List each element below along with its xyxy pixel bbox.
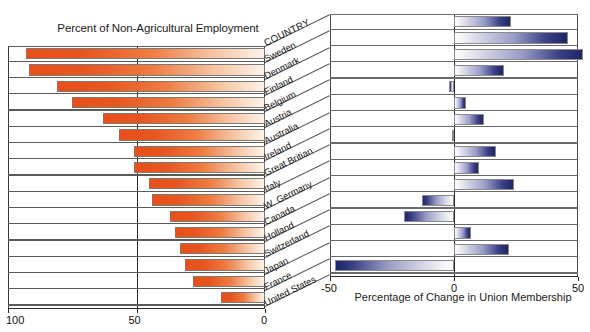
left-row-separator <box>8 288 265 289</box>
right-row-separator <box>330 29 578 30</box>
left-row-separator <box>8 174 265 175</box>
left-row-separator <box>8 77 265 78</box>
left-row-separator <box>8 207 265 208</box>
right-bar-australia <box>454 97 466 108</box>
country-label-ladder: COUNTRYSwedenDenmarkFinlandBelgiumAustri… <box>258 0 344 332</box>
left-row-separator-top <box>8 46 265 47</box>
right-bar-canada <box>454 179 514 190</box>
left-row-separator <box>8 142 265 143</box>
right-bar-w-germany <box>454 162 479 173</box>
left-tick-100 <box>8 309 9 313</box>
right-row-separator <box>330 256 578 257</box>
right-row-separator <box>330 77 578 78</box>
right-row-separator <box>330 175 578 176</box>
left-row-separator <box>8 93 265 94</box>
dual-bar-chart-figure: Percent of Non-Agricultural Employment 1… <box>0 0 590 332</box>
right-row-separator <box>330 61 578 62</box>
left-bar-austria <box>103 113 265 124</box>
left-bar-denmark <box>29 64 265 75</box>
left-chart-panel <box>8 46 265 308</box>
right-bar-austria <box>449 81 454 92</box>
right-tick-zero <box>454 277 455 281</box>
left-bar-great-britian <box>134 162 265 173</box>
right-row-separator <box>330 45 578 46</box>
right-bar-ireland <box>454 114 484 125</box>
right-chart-title: Percentage of Change in Union Membership <box>338 291 588 303</box>
right-row-separator <box>330 142 578 143</box>
right-row-separator <box>330 94 578 95</box>
right-bar-sweden <box>454 16 511 27</box>
right-row-separator <box>330 272 578 273</box>
left-bar-holland <box>175 227 265 238</box>
right-row-separator <box>330 207 578 208</box>
right-row-separator <box>330 110 578 111</box>
right-bar-italy <box>454 146 496 157</box>
left-bar-canada <box>170 211 265 222</box>
left-row-separator <box>8 223 265 224</box>
right-bar-japan <box>454 227 471 238</box>
left-bar-w-germany <box>152 194 265 205</box>
right-bar-france <box>454 244 509 255</box>
right-bar-denmark <box>454 32 568 43</box>
right-chart-panel <box>330 14 578 276</box>
right-bar-united-states <box>335 260 454 271</box>
right-bar-holland <box>422 195 454 206</box>
left-bar-finland <box>57 81 265 92</box>
left-row-separator <box>8 239 265 240</box>
right-bar-finland <box>454 49 583 60</box>
left-row-separator <box>8 191 265 192</box>
left-bar-japan <box>185 259 265 270</box>
left-row-separator <box>8 61 265 62</box>
right-bar-great-britian <box>452 130 454 141</box>
left-row-separator <box>8 256 265 257</box>
right-bar-switzerland <box>404 211 454 222</box>
right-row-separator <box>330 191 578 192</box>
right-row-separator-top <box>330 14 578 15</box>
right-axis: -50050 <box>330 276 578 279</box>
right-row-separator <box>330 126 578 127</box>
left-axis: 100500 <box>8 308 265 311</box>
left-tick-label-100: 100 <box>6 314 24 326</box>
left-bar-ireland <box>134 146 265 157</box>
left-bar-switzerland <box>180 243 265 254</box>
left-row-separator <box>8 109 265 110</box>
left-row-separator <box>8 158 265 159</box>
left-bar-belgium <box>72 97 265 108</box>
right-row-separator <box>330 240 578 241</box>
left-bar-australia <box>119 129 265 140</box>
left-bar-italy <box>149 178 265 189</box>
left-bar-sweden <box>26 48 265 59</box>
left-tick-label-50: 50 <box>129 314 141 326</box>
right-row-separator <box>330 224 578 225</box>
left-tick-50 <box>137 309 138 313</box>
left-chart-title: Percent of Non-Agricultural Employment <box>48 22 268 34</box>
right-bar-belgium <box>454 65 504 76</box>
right-row-separator <box>330 159 578 160</box>
left-row-separator <box>8 272 265 273</box>
left-row-separator <box>8 126 265 127</box>
right-tick-50 <box>578 277 579 281</box>
left-bar-france <box>193 276 265 287</box>
left-row-separator <box>8 304 265 305</box>
